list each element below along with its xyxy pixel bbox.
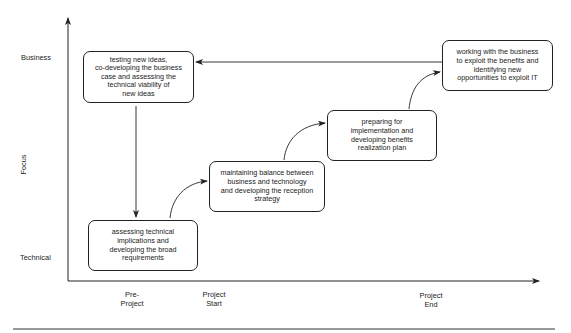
y-tick-technical: Technical (20, 253, 51, 262)
x-tick-project-end: Project End (411, 292, 451, 309)
arrow-assessing-to-maintaining (170, 181, 207, 218)
arrow-maintaining-to-preparing (284, 123, 325, 160)
y-axis-label: Focus (19, 153, 28, 177)
y-tick-business: Business (21, 53, 51, 62)
box-working-with-business: working with the business to exploit the… (442, 40, 553, 91)
x-tick-project-start: Project Start (194, 291, 234, 308)
box-maintaining-balance: maintaining balance between business and… (209, 161, 325, 212)
box-assessing-technical: assessing technical implications and dev… (88, 220, 198, 271)
x-tick-pre-project: Pre- Project (112, 291, 152, 308)
box-preparing-implementation: preparing for implementation and develop… (327, 110, 437, 161)
arrow-preparing-to-working (409, 72, 440, 109)
box-testing-new-ideas: testing new ideas, co-developing the bus… (83, 51, 194, 103)
